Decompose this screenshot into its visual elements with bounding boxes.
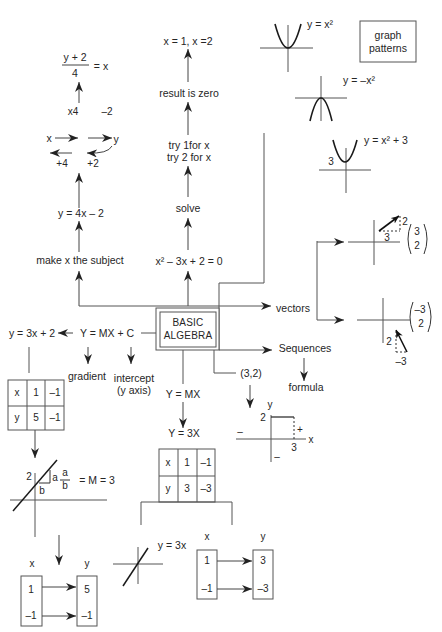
proportional-mapping-output: –3 [257,584,268,594]
center-box [156,308,219,350]
proportional-graph [113,547,163,586]
proportional-mapping-output: 3 [260,556,266,566]
shifted-parabola-graph [319,140,371,193]
linear-table-cell: –1 [49,388,60,398]
vector-1-bottom: 2 [414,241,420,251]
shifted-parabola-label: y = x² + 3 [364,135,408,146]
proportional-example: Y = 3X [168,428,200,439]
coord-plus: + [297,425,303,435]
vector-2-bottom: 2 [418,319,424,329]
coordinate-label: (3,2) [240,368,262,379]
basic-algebra-mind-map: BASIC ALGEBRA y + 2 4 = x x4 –2 x y +4 +… [0,0,442,632]
triangle-side-a: a [52,473,58,483]
inverted-parabola-label: y = –x² [343,75,375,86]
inverse-op-1: +4 [56,159,67,169]
solve-step: solve [176,203,201,214]
coord-x-value: 3 [291,443,297,453]
linear-table-cell: x [15,388,20,398]
coord-minus-y: – [274,452,280,462]
vector-1-dy: 2 [402,217,408,227]
intercept-note: (y axis) [117,385,151,396]
linear-mapping-output: 5 [84,585,90,595]
gradient-frac-den: b [62,481,68,491]
flow-output: y [113,134,118,145]
formula-label: formula [288,382,323,393]
proportional-mapping-input: –1 [201,584,212,594]
linear-table-cell: –1 [49,413,60,423]
triangle-side-b: b [39,486,45,496]
forward-op-multiply: x4 [68,107,79,117]
linear-example: y = 3x + 2 [9,328,55,339]
diagram-lines [0,0,442,632]
proportional-table-cell: x [166,458,171,468]
inverse-op-2: +2 [87,159,98,169]
coord-minus-x: – [237,427,243,437]
linear-mapping-input: –1 [25,611,36,621]
fraction-rhs: = x [94,61,108,72]
proportional-table-cell: 3 [184,484,190,494]
gradient-frac-num: a [62,468,68,478]
vector-1-top: 3 [414,227,420,237]
intercept-label: intercept [114,373,154,384]
sequences-label: Sequences [279,343,332,354]
coord-x-axis-label: x [309,435,314,445]
linear-mapping-input: 1 [28,585,34,595]
proportional-table-cell: y [166,484,171,494]
parabola-label: y = x² [307,19,333,30]
proportional-table-cell: –1 [200,458,211,468]
linear-table-cell: 5 [33,413,39,423]
linear-branch [29,333,131,565]
proportional-table-cell: 1 [184,458,190,468]
proportional-mapping-x-label: x [205,532,210,542]
gradient-frac-rhs: = M = 3 [79,475,115,486]
fraction-denominator: 4 [72,68,78,79]
proportional-mapping-input: 1 [204,556,210,566]
center-title-line1: BASIC [172,318,203,328]
linear-graph-intercept: 2 [26,472,32,482]
vector-2-top: –3 [414,305,425,315]
coord-y-axis-label: y [268,400,273,410]
flow-input: x [46,133,51,144]
proportional-mapping-y-label: y [261,532,266,542]
fraction-numerator: y + 2 [63,52,86,63]
try-1: try 1for x [169,140,210,151]
linear-general: Y = MX + C [80,328,134,339]
coord-y-value: 2 [260,413,266,423]
parabola-graph [260,24,313,72]
try-2: try 2 for x [167,152,211,163]
gradient-label: gradient [68,371,106,382]
quadratic-result: x = 1, x =2 [163,36,212,47]
linear-mapping-output: –1 [81,611,92,621]
inverted-parabola-graph [295,76,347,121]
proportional-table-cell: –3 [200,484,211,494]
quadratic-equation: x² – 3x + 2 = 0 [155,256,222,267]
vectors-label: vectors [276,303,310,314]
linear-graph [10,460,107,537]
linear-table-cell: y [15,413,20,423]
vector-2-dy: 2 [386,337,392,347]
vectors-branch [317,241,344,320]
forward-op-subtract: –2 [101,107,112,117]
linear-mapping-y-label: y [85,559,90,569]
graph-patterns-line1: graph [375,30,402,41]
linear-equation: y = 4x – 2 [58,208,104,219]
graph-patterns-line2: patterns [369,43,407,54]
linear-mapping-x-label: x [30,559,35,569]
linear-table-cell: 1 [33,388,39,398]
center-title-line2: ALGEBRA [164,331,213,341]
shift-value: 3 [328,157,334,167]
proportional-graph-label: y = 3x [158,540,186,551]
proportional-general: Y = MX [166,389,201,400]
rearranging-arrows [50,65,112,306]
result-is-zero: result is zero [159,88,219,99]
make-subject-step: make x the subject [36,255,124,266]
vector-1-dx: 3 [384,233,390,243]
vector-2-dx: –3 [395,357,406,367]
